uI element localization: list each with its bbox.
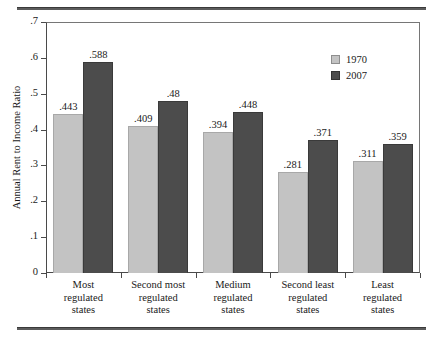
bar-2007-5 — [383, 144, 413, 273]
y-tick-label: .4 — [8, 124, 38, 134]
legend-label-1970: 1970 — [346, 54, 367, 65]
bottom-rule — [17, 327, 426, 330]
bar-1970-2 — [128, 126, 158, 273]
legend-item-1970: 1970 — [331, 52, 391, 66]
x-tick-mark — [270, 273, 271, 278]
y-tick-label-wrap: .6 — [8, 52, 38, 63]
legend-item-2007: 2007 — [331, 68, 391, 82]
y-tick-label-wrap: .7 — [8, 16, 38, 27]
top-rule — [17, 7, 426, 10]
bar-value-label-1970-1: .443 — [45, 101, 91, 112]
legend-swatch-2007-icon — [331, 71, 340, 80]
x-category-label-1: Most regulated states — [40, 279, 127, 317]
bar-value-label-1970-5: .311 — [345, 148, 391, 159]
x-tick-mark — [345, 273, 346, 278]
y-tick-label: .6 — [8, 52, 38, 62]
y-tick-label: .5 — [8, 88, 38, 98]
x-category-label-3: Medium regulated states — [190, 279, 277, 317]
bar-value-label-2007-3: .448 — [225, 99, 271, 110]
bar-value-label-2007-4: .371 — [300, 127, 346, 138]
y-tick-label-wrap: .4 — [8, 124, 38, 135]
x-category-label-5: Least regulated states — [339, 279, 426, 317]
y-tick-label-wrap: 0 — [8, 267, 38, 278]
x-tick-mark — [46, 273, 47, 278]
y-tick-label: .3 — [8, 159, 38, 169]
x-category-label-4: Second least regulated states — [264, 279, 351, 317]
bar-value-label-1970-4: .281 — [270, 159, 316, 170]
legend-label-2007: 2007 — [346, 70, 367, 81]
y-tick-label: 0 — [8, 267, 38, 277]
x-category-label-2: Second most regulated states — [115, 279, 202, 317]
bar-value-label-2007-2: .48 — [150, 88, 196, 99]
bar-value-label-2007-5: .359 — [375, 131, 421, 142]
y-tick-label: .7 — [8, 16, 38, 26]
bar-value-label-2007-1: .588 — [75, 49, 121, 60]
bar-1970-5 — [353, 161, 383, 273]
bar-value-label-1970-3: .394 — [195, 119, 241, 130]
bar-1970-4 — [278, 172, 308, 273]
bar-value-label-1970-2: .409 — [120, 113, 166, 124]
bar-1970-3 — [203, 132, 233, 273]
figure-container: Annual Rent to Income Ratio 0.1.2.3.4.5.… — [0, 0, 439, 339]
y-tick-label-wrap: .3 — [8, 159, 38, 170]
x-tick-mark — [121, 273, 122, 278]
y-tick-label-wrap: .2 — [8, 195, 38, 206]
bar-2007-3 — [233, 112, 263, 273]
y-tick-label: .1 — [8, 231, 38, 241]
x-tick-mark — [420, 273, 421, 278]
bar-2007-2 — [158, 101, 188, 273]
y-tick-label-wrap: .5 — [8, 88, 38, 99]
bar-2007-1 — [83, 62, 113, 273]
legend-swatch-1970-icon — [331, 55, 340, 64]
y-tick-label: .2 — [8, 195, 38, 205]
y-tick-label-wrap: .1 — [8, 231, 38, 242]
bar-1970-1 — [53, 114, 83, 273]
chart-legend: 1970 2007 — [331, 52, 391, 84]
x-tick-mark — [196, 273, 197, 278]
